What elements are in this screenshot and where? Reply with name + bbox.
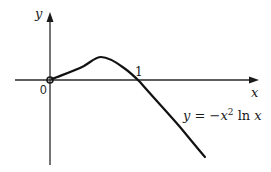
function-graph: y x 0 1 y = −x2 ln x [0, 0, 271, 172]
y-axis-arrow-icon [47, 12, 54, 22]
curve-equation-label: y = −x2 ln x [182, 107, 262, 123]
x-axis-arrow-icon [249, 77, 259, 84]
y-axis-label: y [34, 6, 43, 21]
x-axis-label: x [251, 85, 259, 100]
tick-one-label: 1 [135, 65, 143, 79]
curve-y-eq-neg-x2-lnx [52, 57, 205, 157]
origin-label: 0 [40, 83, 47, 97]
